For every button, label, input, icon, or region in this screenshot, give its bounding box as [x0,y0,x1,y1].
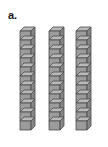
figure-container: a. [0,0,108,147]
cube-stack-svg [75,26,92,131]
cube-stack-3 [75,26,92,131]
cube [76,117,91,130]
cube-stacks-group [0,26,108,144]
cube-stack-2 [48,26,65,131]
cube-front-face [76,121,87,130]
cube-stack-1 [19,26,36,131]
cube-front-face [49,121,60,130]
cube-stack-svg [19,26,36,131]
part-label: a. [8,9,17,21]
cube [49,117,64,130]
cube-stack-svg [48,26,65,131]
cube [20,117,35,130]
cube-front-face [20,121,31,130]
